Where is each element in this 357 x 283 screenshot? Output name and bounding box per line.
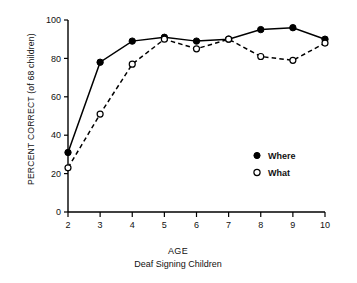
x-tick-label: 8 [258, 220, 263, 230]
x-tick-label: 6 [194, 220, 199, 230]
x-axis-title: AGE [168, 246, 188, 256]
y-tick-label: 0 [56, 207, 61, 217]
data-point-what [97, 111, 103, 117]
data-point-what [194, 46, 200, 52]
x-tick-label: 9 [290, 220, 295, 230]
x-tick-label: 4 [130, 220, 135, 230]
data-point-what [258, 53, 264, 59]
y-tick-label: 40 [51, 130, 61, 140]
legend-marker-what [254, 169, 260, 175]
y-tick-label: 20 [51, 169, 61, 179]
x-tick-label: 2 [65, 220, 70, 230]
y-axis-ticks: 020406080100 [46, 15, 68, 217]
y-tick-label: 80 [51, 54, 61, 64]
data-point-where [97, 59, 103, 65]
chart-figure: PERCENT CORRECT (of 68 children) 0204060… [0, 0, 357, 283]
data-point-what [290, 57, 296, 63]
data-point-where [258, 26, 264, 32]
chart-legend: Where What [254, 151, 296, 178]
x-axis-ticks: 2345678910 [65, 212, 330, 230]
x-tick-label: 5 [162, 220, 167, 230]
legend-marker-where [254, 152, 260, 158]
percent-correct-by-age-line-chart: PERCENT CORRECT (of 68 children) 0204060… [0, 0, 357, 283]
legend-label-what: What [268, 168, 290, 178]
y-tick-label: 60 [51, 92, 61, 102]
y-axis-title: PERCENT CORRECT (of 68 children) [26, 33, 36, 185]
x-tick-label: 3 [98, 220, 103, 230]
x-axis-subtitle: Deaf Signing Children [134, 259, 222, 269]
data-point-what [226, 36, 232, 42]
y-tick-label: 100 [46, 15, 61, 25]
data-series-layer [65, 24, 328, 170]
x-tick-label: 10 [320, 220, 330, 230]
legend-label-where: Where [268, 151, 296, 161]
x-tick-label: 7 [226, 220, 231, 230]
data-point-what [322, 40, 328, 46]
data-point-where [65, 149, 71, 155]
chart-axes: 020406080100 2345678910 [46, 15, 330, 230]
data-point-what [65, 165, 71, 171]
data-point-where [193, 38, 199, 44]
data-point-where [129, 38, 135, 44]
data-point-what [129, 61, 135, 67]
data-point-where [290, 24, 296, 30]
data-point-what [161, 36, 167, 42]
